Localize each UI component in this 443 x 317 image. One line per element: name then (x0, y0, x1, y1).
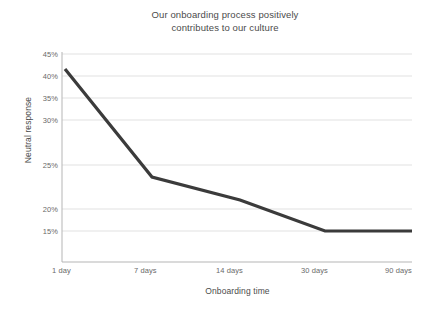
series-line-neutral-response (65, 69, 412, 231)
gridlines (62, 54, 412, 231)
line-chart: Our onboarding process positively contri… (0, 0, 443, 317)
plot-area (0, 0, 443, 317)
